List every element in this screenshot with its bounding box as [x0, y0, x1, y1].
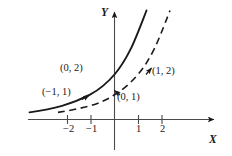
- point-label-neg1-1: (−1, 1): [42, 87, 71, 98]
- point-label-1-2: (1, 2): [152, 66, 175, 77]
- plot-canvas: [0, 0, 232, 156]
- point-label-0-1: (0, 1): [117, 92, 140, 103]
- x-tick-label-neg2: −2: [63, 124, 74, 135]
- point-label-0-2: (0, 2): [60, 63, 83, 74]
- x-tick-label-neg1: −1: [86, 124, 97, 135]
- x-axis-label: X: [209, 134, 217, 146]
- exponential-functions-figure: Y X −2 −1 1 2 (0, 2) (−1, 1) (0, 1) (1, …: [0, 0, 232, 156]
- x-tick-label-1: 1: [136, 124, 141, 135]
- leader-line-pt-1-2: [146, 68, 152, 75]
- x-tick-label-2: 2: [160, 124, 165, 135]
- y-axis-label: Y: [101, 7, 108, 19]
